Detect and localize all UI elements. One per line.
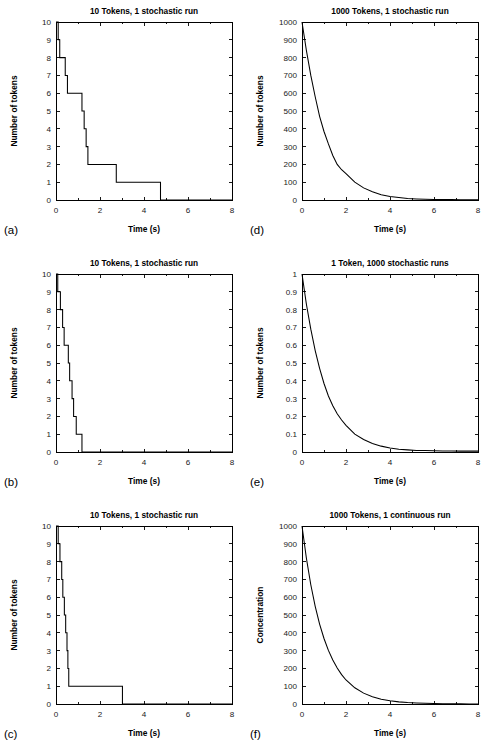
y-tick-label: 1 [46,178,51,187]
y-tick-label: 600 [283,89,297,98]
x-tick-label: 8 [230,710,235,719]
y-tick-label: 10 [42,270,52,279]
x-axis-title: Time (s) [374,476,406,486]
y-tick-label: 4 [46,377,51,386]
y-tick-label: 0.3 [286,395,298,404]
y-tick-label: 600 [283,593,297,602]
x-axis-title: Time (s) [374,728,406,738]
y-tick-label: 700 [283,575,297,584]
y-tick-label: 800 [283,54,297,63]
x-tick-label: 4 [388,206,393,215]
plot-title: 1000 Tokens, 1 continuous run [329,510,450,520]
panel-e: 1 Token, 1000 stochastic runs00.10.20.30… [246,252,493,504]
y-tick-label: 1 [46,682,51,691]
panel-letter: (a) [4,224,18,236]
y-tick-label: 1 [46,430,51,439]
y-tick-label: 400 [283,629,297,638]
x-axis-title: Time (s) [128,728,160,738]
y-tick-label: 7 [46,71,51,80]
plot-title: 10 Tokens, 1 stochastic run [90,258,198,268]
x-tick-label: 2 [98,458,103,467]
x-tick-label: 2 [98,710,103,719]
data-curve [56,22,232,200]
y-tick-label: 5 [46,359,51,368]
x-tick-label: 0 [54,710,59,719]
x-tick-label: 4 [388,458,393,467]
y-tick-label: 9 [46,288,51,297]
plot-title: 10 Tokens, 1 stochastic run [90,6,198,16]
y-tick-label: 9 [46,36,51,45]
panel-d: 1000 Tokens, 1 stochastic run01002003004… [246,0,493,252]
plot-title: 10 Tokens, 1 stochastic run [90,510,198,520]
panel-a: 10 Tokens, 1 stochastic run0123456789100… [0,0,246,252]
y-tick-label: 500 [283,611,297,620]
x-axis-title: Time (s) [374,224,406,234]
y-tick-label: 0.5 [286,359,298,368]
plot-frame [56,526,232,704]
x-tick-label: 8 [230,206,235,215]
y-tick-label: 6 [46,89,51,98]
panel-letter: (b) [4,476,18,488]
x-axis-title: Time (s) [128,224,160,234]
x-tick-label: 6 [186,710,191,719]
y-tick-label: 800 [283,558,297,567]
x-tick-label: 2 [98,206,103,215]
y-tick-label: 0 [292,196,297,205]
panel-letter: (e) [250,476,264,488]
panel-letter: (c) [4,728,18,740]
data-curve [56,526,232,704]
panel-c: 10 Tokens, 1 stochastic run0123456789100… [0,504,246,756]
y-tick-label: 0 [46,700,51,709]
plot-frame [302,526,478,704]
y-tick-label: 0 [292,448,297,457]
x-tick-label: 4 [388,710,393,719]
y-axis-title: Number of tokens [9,327,19,399]
x-tick-label: 6 [186,458,191,467]
y-axis-title: Concentration [255,587,265,644]
y-tick-label: 1000 [279,18,298,27]
y-tick-label: 6 [46,341,51,350]
x-tick-label: 0 [300,206,305,215]
x-tick-label: 6 [186,206,191,215]
plot-frame [302,274,478,452]
panel-letter: (d) [250,224,264,236]
y-axis-title: Number of tokens [9,75,19,147]
y-tick-label: 700 [283,71,297,80]
y-tick-label: 1000 [279,522,298,531]
x-tick-label: 2 [344,458,349,467]
y-tick-label: 2 [46,412,51,421]
y-tick-label: 900 [283,36,297,45]
y-tick-label: 10 [42,522,52,531]
data-curve [56,274,232,452]
x-tick-label: 0 [54,458,59,467]
y-tick-label: 0.4 [286,377,298,386]
plot-title: 1 Token, 1000 stochastic runs [331,258,449,268]
y-tick-label: 1 [292,270,297,279]
y-tick-label: 8 [46,54,51,63]
x-tick-label: 8 [476,710,481,719]
panel-f: 1000 Tokens, 1 continuous run01002003004… [246,504,493,756]
y-tick-label: 0.8 [286,306,298,315]
y-tick-label: 2 [46,664,51,673]
plot-frame [56,274,232,452]
y-tick-label: 900 [283,540,297,549]
y-tick-label: 0 [292,700,297,709]
y-tick-label: 0 [46,196,51,205]
x-tick-label: 8 [476,458,481,467]
y-tick-label: 0.9 [286,288,298,297]
y-tick-label: 200 [283,664,297,673]
data-curve [302,526,478,704]
x-tick-label: 8 [476,206,481,215]
x-tick-label: 0 [300,710,305,719]
y-tick-label: 100 [283,682,297,691]
figure-panel-grid: 10 Tokens, 1 stochastic run0123456789100… [0,0,493,756]
x-tick-label: 8 [230,458,235,467]
y-tick-label: 9 [46,540,51,549]
x-tick-label: 2 [344,710,349,719]
y-axis-title: Number of tokens [255,327,265,399]
y-tick-label: 10 [42,18,52,27]
x-tick-label: 6 [432,458,437,467]
y-tick-label: 0 [46,448,51,457]
y-tick-label: 2 [46,160,51,169]
y-tick-label: 3 [46,395,51,404]
